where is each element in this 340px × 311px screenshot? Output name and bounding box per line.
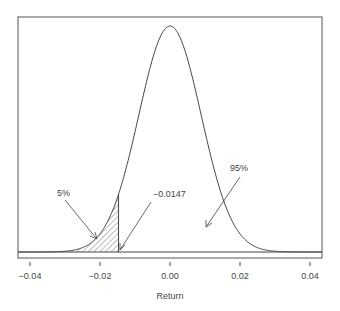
x-tick-label: −0.04 <box>19 271 42 281</box>
density-curve <box>18 26 323 252</box>
x-tick-label: 0.04 <box>301 271 319 281</box>
x-axis: −0.04 −0.02 0.00 0.02 0.04 <box>19 262 319 281</box>
arrow-95-percent <box>206 177 240 227</box>
x-tick-label: 0.00 <box>161 271 179 281</box>
arrow-cutoff <box>120 202 151 250</box>
arrow-5-percent <box>65 200 96 238</box>
plot-frame <box>18 17 322 258</box>
annotation-cutoff-value: −0.0147 <box>153 189 186 199</box>
annotation-5-percent: 5% <box>57 188 70 198</box>
annotation-95-percent: 95% <box>230 163 248 173</box>
arrowhead-icon <box>206 220 212 227</box>
x-tick-label: 0.02 <box>231 271 249 281</box>
normal-density-chart: −0.04 −0.02 0.00 0.02 0.04 Return 5% −0.… <box>0 0 340 311</box>
x-tick-label: −0.02 <box>89 271 112 281</box>
shaded-left-tail <box>18 194 119 252</box>
x-axis-label: Return <box>156 291 183 301</box>
